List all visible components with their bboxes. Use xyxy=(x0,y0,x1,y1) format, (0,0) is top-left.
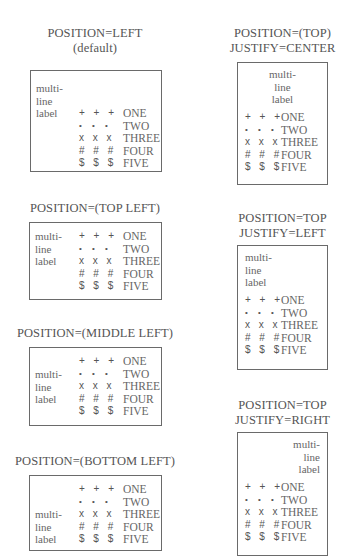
plus-icon: + + + xyxy=(245,481,281,494)
legend-box-top-center: multi- line label + + +ONE • • •TWO x x … xyxy=(237,62,328,185)
entry-text: ONE xyxy=(281,111,305,124)
legend-entry: • • •TWO xyxy=(79,496,160,509)
legend-box-middle-left: multi- line label + + +ONE • • •TWO x x … xyxy=(29,347,162,426)
label-line: label xyxy=(35,533,62,546)
hash-icon: # # # xyxy=(79,268,123,281)
entry-text: TWO xyxy=(281,124,307,137)
title-line: POSITION=TOP xyxy=(205,211,348,226)
legend-box-top-justify-left: multi- line label + + +ONE • • •TWO x x … xyxy=(237,245,328,370)
entry-text: THREE xyxy=(123,255,160,268)
dollar-icon: $ $ $ xyxy=(79,405,123,418)
legend-entry: + + +ONE xyxy=(245,481,318,494)
label-line: multi- xyxy=(35,508,62,521)
cross-icon: x x x xyxy=(79,255,123,268)
hash-icon: # # # xyxy=(245,149,281,162)
cross-icon: x x x xyxy=(79,508,123,521)
multiline-label: multi- line label xyxy=(35,368,62,406)
label-line: label xyxy=(293,463,320,476)
plus-icon: + + + xyxy=(79,355,123,368)
legend-entries: + + +ONE • • •TWO x x xTHREE # # #FOUR $… xyxy=(79,483,160,546)
legend-entry: + + +ONE xyxy=(79,230,160,243)
legend-entry: + + +ONE xyxy=(79,483,160,496)
bullet-icon: • • • xyxy=(245,307,281,320)
bullet-icon: • • • xyxy=(79,243,123,256)
legend-entry: x x xTHREE xyxy=(245,506,318,519)
entry-text: FIVE xyxy=(281,344,307,357)
label-line: line xyxy=(35,521,62,534)
legend-entries: + + +ONE • • •TWO x x xTHREE # # #FOUR $… xyxy=(245,481,318,544)
dollar-icon: $ $ $ xyxy=(79,157,123,170)
plus-icon: + + + xyxy=(79,107,123,120)
entry-text: ONE xyxy=(123,483,147,496)
legend-entry: • • •TWO xyxy=(245,307,318,320)
hash-icon: # # # xyxy=(245,332,281,345)
entry-text: FOUR xyxy=(281,519,312,532)
hash-icon: # # # xyxy=(79,145,123,158)
legend-entry: $ $ $FIVE xyxy=(79,533,160,546)
entry-text: FOUR xyxy=(123,268,154,281)
legend-entry: $ $ $FIVE xyxy=(79,280,160,293)
label-line: line xyxy=(35,381,62,394)
legend-entry: $ $ $FIVE xyxy=(245,531,318,544)
entry-text: TWO xyxy=(123,243,149,256)
entry-text: FOUR xyxy=(123,145,154,158)
entry-text: TWO xyxy=(123,368,149,381)
label-line: line xyxy=(293,451,320,464)
legend-entry: x x xTHREE xyxy=(245,319,318,332)
dollar-icon: $ $ $ xyxy=(245,531,281,544)
cross-icon: x x x xyxy=(245,136,281,149)
cross-icon: x x x xyxy=(245,319,281,332)
legend-entry: # # #FOUR xyxy=(79,145,160,158)
title-line: POSITION=LEFT xyxy=(20,26,170,41)
title-line: JUSTIFY=RIGHT xyxy=(205,413,348,428)
entry-text: THREE xyxy=(281,506,318,519)
legend-entries: + + +ONE • • •TWO x x xTHREE # # #FOUR $… xyxy=(79,107,160,170)
entry-text: FOUR xyxy=(281,332,312,345)
entry-text: TWO xyxy=(123,496,149,509)
panel-title-bottom-left: POSITION=(BOTTOM LEFT) xyxy=(5,454,185,469)
entry-text: TWO xyxy=(281,307,307,320)
legend-entry: # # #FOUR xyxy=(245,149,318,162)
legend-entry: $ $ $FIVE xyxy=(245,344,318,357)
entry-text: FIVE xyxy=(123,405,149,418)
entry-text: THREE xyxy=(123,380,160,393)
legend-entry: # # #FOUR xyxy=(79,268,160,281)
label-line: line xyxy=(35,243,62,256)
legend-entries: + + +ONE • • •TWO x x xTHREE # # #FOUR $… xyxy=(245,294,318,357)
bullet-icon: • • • xyxy=(79,496,123,509)
title-line: (default) xyxy=(20,41,170,56)
label-line: multi- xyxy=(238,68,327,81)
label-line: line xyxy=(245,264,272,277)
legend-entry: + + +ONE xyxy=(79,107,160,120)
title-line: POSITION=(TOP LEFT) xyxy=(10,201,180,216)
cross-icon: x x x xyxy=(245,506,281,519)
entry-text: FIVE xyxy=(123,280,149,293)
legend-entry: • • •TWO xyxy=(79,243,160,256)
legend-entries: + + +ONE • • •TWO x x xTHREE # # #FOUR $… xyxy=(245,111,318,174)
legend-entry: $ $ $FIVE xyxy=(79,405,160,418)
dollar-icon: $ $ $ xyxy=(245,344,281,357)
label-line: line xyxy=(36,95,63,108)
cross-icon: x x x xyxy=(79,132,123,145)
legend-entry: # # #FOUR xyxy=(79,393,160,406)
entry-text: FIVE xyxy=(123,533,149,546)
legend-box-bottom-left: multi- line label + + +ONE • • •TWO x x … xyxy=(29,475,162,551)
legend-entry: + + +ONE xyxy=(245,294,318,307)
title-line: POSITION=TOP xyxy=(205,398,348,413)
legend-entry: x x xTHREE xyxy=(79,380,160,393)
dollar-icon: $ $ $ xyxy=(245,161,281,174)
multiline-label: multi- line label xyxy=(245,251,272,289)
multiline-label: multi- line label xyxy=(35,508,62,546)
entry-text: TWO xyxy=(281,494,307,507)
panel-title-middle-left: POSITION=(MIDDLE LEFT) xyxy=(5,326,185,341)
title-line: JUSTIFY=LEFT xyxy=(205,226,348,241)
entry-text: FOUR xyxy=(123,521,154,534)
multiline-label: multi- line label xyxy=(36,82,63,120)
legend-entry: x x xTHREE xyxy=(79,255,160,268)
legend-entry: # # #FOUR xyxy=(79,521,160,534)
label-line: multi- xyxy=(293,438,320,451)
label-line: label xyxy=(238,93,327,106)
label-line: multi- xyxy=(36,82,63,95)
legend-entry: x x xTHREE xyxy=(79,132,160,145)
bullet-icon: • • • xyxy=(79,368,123,381)
